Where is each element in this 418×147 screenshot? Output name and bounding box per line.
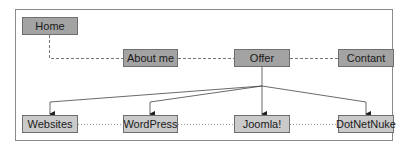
node-websites: Websites <box>22 115 78 133</box>
node-wordpress-label: WordPress <box>123 118 177 130</box>
node-websites-label: Websites <box>27 118 72 130</box>
dashed-connector <box>50 35 339 59</box>
node-about-me: About me <box>123 49 178 67</box>
node-joomla-label: Joomla! <box>243 118 282 130</box>
node-joomla: Joomla! <box>234 115 290 133</box>
node-offer-label: Offer <box>250 52 274 64</box>
node-wordpress: WordPress <box>123 115 178 133</box>
node-dotnetnuke-label: DotNetNuke <box>336 118 396 130</box>
node-contant: Contant <box>338 49 394 67</box>
node-dotnetnuke: DotNetNuke <box>338 115 394 133</box>
arrow-connector <box>50 67 366 114</box>
node-home: Home <box>22 17 78 35</box>
node-offer: Offer <box>234 49 290 67</box>
node-contant-label: Contant <box>347 52 386 64</box>
node-home-label: Home <box>35 20 64 32</box>
node-about-me-label: About me <box>127 52 174 64</box>
